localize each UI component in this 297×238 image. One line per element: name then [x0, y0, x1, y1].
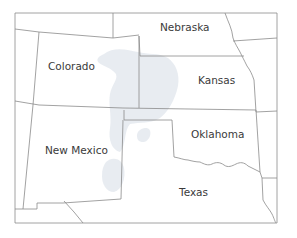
border-co-north	[15, 29, 139, 38]
state-label-nebraska: Nebraska	[160, 21, 210, 33]
border-co-nm	[15, 101, 123, 108]
state-label-new-mexico: New Mexico	[45, 144, 108, 156]
border-tx-east	[260, 172, 276, 223]
state-label-colorado: Colorado	[48, 60, 95, 72]
highlight-region	[97, 49, 178, 192]
border-missouri-river	[225, 13, 254, 80]
border-nm-south	[23, 199, 121, 209]
border-rio-grande	[64, 201, 83, 223]
border-ne-ks	[139, 36, 244, 56]
border-co-west	[33, 32, 39, 105]
border-red-river	[174, 157, 260, 172]
border-ia-mo	[233, 38, 277, 41]
border-ok-east	[256, 110, 260, 172]
map-canvas	[0, 0, 297, 238]
state-label-oklahoma: Oklahoma	[191, 128, 244, 140]
border-ks-east	[254, 80, 256, 112]
state-label-kansas: Kansas	[198, 74, 235, 86]
border-az-nm	[23, 105, 33, 209]
state-label-texas: Texas	[179, 186, 208, 198]
border-ok-west	[172, 120, 174, 157]
border-mo-ar	[256, 111, 277, 112]
